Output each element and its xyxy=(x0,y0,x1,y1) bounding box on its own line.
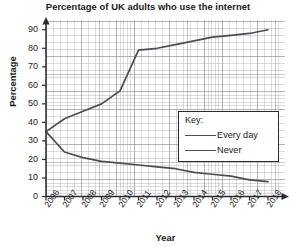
y-axis-tick-label: 30 xyxy=(16,136,38,145)
y-axis-tick-label: 80 xyxy=(16,44,38,53)
y-axis-tick-label: 90 xyxy=(16,25,38,34)
y-axis-tick-label: 60 xyxy=(16,81,38,90)
y-axis xyxy=(42,17,49,197)
y-axis-tick-label: 50 xyxy=(16,99,38,108)
y-axis-tick-label: 10 xyxy=(16,173,38,182)
legend-line-swatch-icon xyxy=(185,135,216,136)
y-axis-title: Percentage xyxy=(7,42,18,122)
chart-legend: Key: Every day Never xyxy=(178,111,279,162)
y-axis-tick-label: 70 xyxy=(16,62,38,71)
y-axis-tick-label: 40 xyxy=(16,118,38,127)
legend-title: Key: xyxy=(185,115,203,125)
legend-line-swatch-icon xyxy=(185,150,216,151)
legend-label: Never xyxy=(217,144,242,156)
chart-figure: Percentage of UK adults who use the inte… xyxy=(0,0,296,246)
legend-label: Every day xyxy=(217,129,258,141)
x-axis-title: Year xyxy=(46,232,285,243)
y-axis-tick-label: 0 xyxy=(16,192,38,201)
y-axis-tick-label: 20 xyxy=(16,155,38,164)
